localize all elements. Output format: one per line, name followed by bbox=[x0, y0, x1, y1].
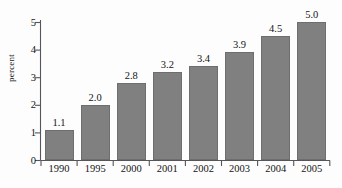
bar-slot-2000: 2.8 bbox=[113, 22, 149, 160]
x-tick-label-2001: 2001 bbox=[149, 163, 185, 175]
bar-slot-2002: 3.4 bbox=[185, 22, 221, 160]
bar-chart: percent 0 1 2 3 4 bbox=[0, 0, 342, 188]
x-tick-label-2002: 2002 bbox=[185, 163, 221, 175]
bar-2003 bbox=[225, 52, 254, 160]
bar-slot-2001: 3.2 bbox=[149, 22, 185, 160]
bar-1990 bbox=[45, 130, 74, 160]
bar-value-1995: 2.0 bbox=[77, 92, 113, 103]
bar-slot-1990: 1.1 bbox=[41, 22, 77, 160]
y-tick-label-4: 4 bbox=[22, 45, 36, 55]
bar-value-2003: 3.9 bbox=[222, 39, 258, 50]
bar-2005 bbox=[297, 22, 326, 160]
bar-value-2002: 3.4 bbox=[185, 53, 221, 64]
bar-value-2001: 3.2 bbox=[149, 59, 185, 70]
bar-2000 bbox=[117, 83, 146, 160]
bar-value-2005: 5.0 bbox=[294, 9, 330, 20]
bar-slot-2003: 3.9 bbox=[222, 22, 258, 160]
bar-1995 bbox=[81, 105, 110, 160]
x-axis-labels: 1990 1995 2000 2001 2002 2003 2004 2005 bbox=[41, 163, 330, 181]
y-tick-label-1: 1 bbox=[22, 128, 36, 138]
plot-area: 1.1 2.0 2.8 3.2 3.4 3.9 4.5 5.0 bbox=[41, 22, 330, 160]
y-tick-label-2: 2 bbox=[22, 100, 36, 110]
bar-slot-1995: 2.0 bbox=[77, 22, 113, 160]
bar-2001 bbox=[153, 72, 182, 160]
bar-slot-2005: 5.0 bbox=[294, 22, 330, 160]
x-tick-label-1995: 1995 bbox=[77, 163, 113, 175]
x-tick-label-2000: 2000 bbox=[113, 163, 149, 175]
y-tick-label-3: 3 bbox=[22, 73, 36, 83]
bar-value-2004: 4.5 bbox=[258, 23, 294, 34]
x-tick-label-2004: 2004 bbox=[258, 163, 294, 175]
x-tick-label-1990: 1990 bbox=[41, 163, 77, 175]
bar-2004 bbox=[261, 36, 290, 160]
x-tick-label-2003: 2003 bbox=[222, 163, 258, 175]
x-tick-label-2005: 2005 bbox=[294, 163, 330, 175]
y-tick-label-0: 0 bbox=[22, 156, 36, 166]
bar-slot-2004: 4.5 bbox=[258, 22, 294, 160]
bar-value-1990: 1.1 bbox=[41, 117, 77, 128]
bar-2002 bbox=[189, 66, 218, 160]
y-tick-label-5: 5 bbox=[22, 18, 36, 28]
bar-value-2000: 2.8 bbox=[113, 70, 149, 81]
